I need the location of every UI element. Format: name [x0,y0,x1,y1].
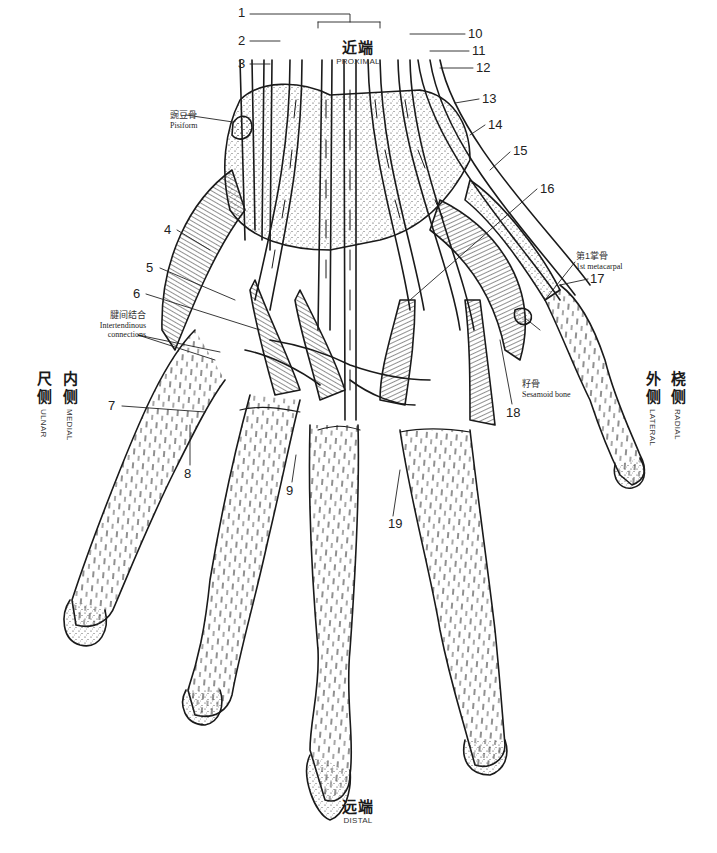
radial-cn-1: 桡 [670,370,686,388]
annotation-sesamoid: 籽骨 Sesamoid bone [522,377,571,399]
callout-16: 16 [540,181,554,196]
callout-15: 15 [513,143,527,158]
proximal-cn: 近端 [318,36,398,57]
sesamoid-cn: 籽骨 [522,377,571,390]
callout-14: 14 [488,117,502,132]
callout-8: 8 [184,466,191,481]
radial-en: RADIAL [673,409,682,440]
callout-5: 5 [146,260,153,275]
orientation-lateral: 外 侧 LATERAL [645,370,661,446]
orientation-ulnar: 尺 侧 ULNAR [36,370,52,438]
medial-en: MEDIAL [65,409,74,441]
sesamoid-bone [514,308,531,324]
little-finger [72,330,225,626]
callout-13: 13 [482,91,496,106]
ulnar-cn-2: 侧 [36,388,52,406]
pisiform-en: Pisiform [170,121,198,130]
medial-cn-2: 侧 [62,388,78,406]
orientation-top: 近端 PROXIMAL [318,36,398,66]
callout-11: 11 [472,43,486,58]
middle-finger [309,425,358,801]
callout-3: 3 [238,56,245,71]
callout-4: 4 [164,222,171,237]
callout-18: 18 [506,405,520,420]
intertendinous-en-2: connections [82,330,146,339]
callout-1: 1 [238,5,245,20]
first-metacarpal-en: 1st metacarpal [576,262,622,271]
callout-10: 10 [468,26,482,41]
annotation-intertendinous: 腱间结合 Intertendinous connections [82,308,146,339]
lateral-en: LATERAL [648,409,657,446]
intertendinous-en-1: Intertendinous [82,321,146,330]
ring-finger [188,395,300,716]
callout-9: 9 [286,483,293,498]
distal-en: DISTAL [318,816,398,825]
distal-cn: 远端 [318,795,398,816]
callout-6: 6 [133,286,140,301]
annotation-first-metacarpal: 第1掌骨 1st metacarpal [576,249,622,271]
callout-17: 17 [590,271,604,286]
callout-12: 12 [476,60,490,75]
lateral-cn-1: 外 [645,370,661,388]
annotation-pisiform: 豌豆骨 Pisiform [170,108,198,130]
orientation-radial: 桡 侧 RADIAL [670,370,686,440]
callout-19: 19 [388,516,402,531]
callout-7: 7 [108,398,115,413]
pisiform-cn: 豌豆骨 [170,108,198,121]
ulnar-cn-1: 尺 [36,370,52,388]
sesamoid-en: Sesamoid bone [522,390,571,399]
first-metacarpal-cn: 第1掌骨 [576,249,622,262]
intertendinous-cn: 腱间结合 [82,308,146,321]
orientation-medial: 内 侧 MEDIAL [62,370,78,441]
proximal-en: PROXIMAL [318,57,398,66]
lateral-cn-2: 侧 [645,388,661,406]
hand-dorsal-illustration [0,0,717,853]
callout-2: 2 [238,33,245,48]
ulnar-en: ULNAR [39,409,48,438]
orientation-bottom: 远端 DISTAL [318,795,398,825]
index-finger [400,430,505,766]
radial-cn-2: 侧 [670,388,686,406]
medial-cn-1: 内 [62,370,78,388]
